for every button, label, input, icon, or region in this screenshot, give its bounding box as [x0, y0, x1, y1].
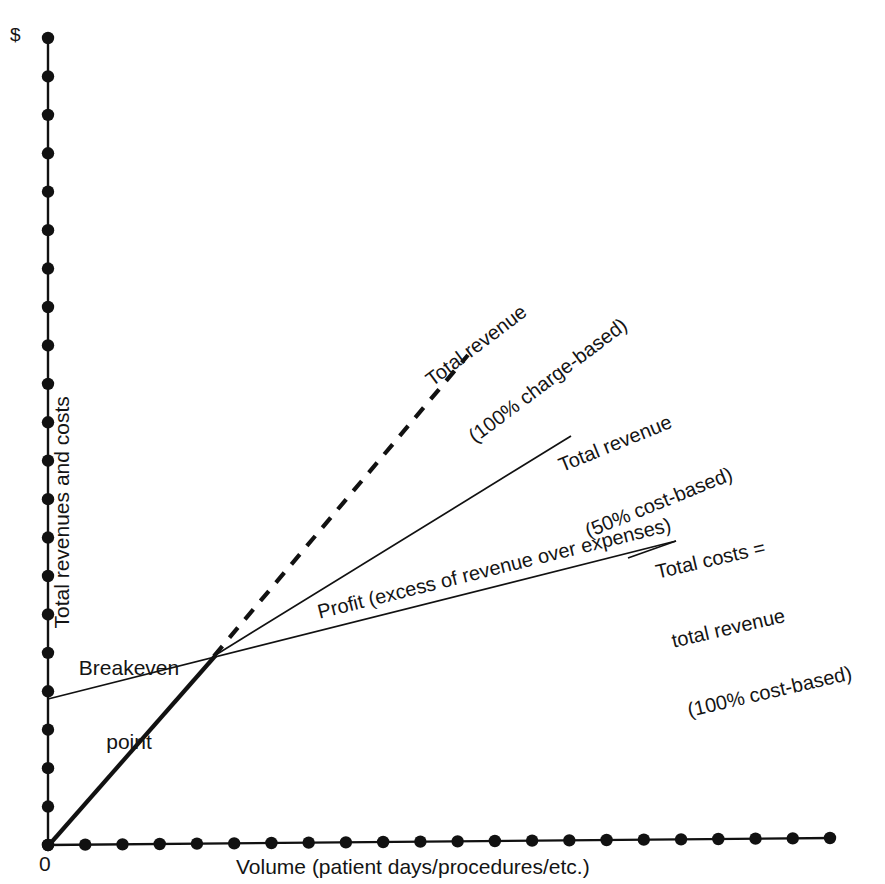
x-axis-tick-dot: [526, 834, 538, 846]
y-axis-tick-dot: [42, 224, 54, 236]
x-axis-tick-dot: [265, 837, 277, 849]
x-axis-tick-dot: [712, 833, 724, 845]
y-axis-tick-dot: [42, 32, 54, 44]
x-axis-tick-dot: [787, 832, 799, 844]
breakeven-label-line-2: point: [58, 730, 200, 755]
x-axis-tick-dot: [377, 836, 389, 848]
x-axis-tick-dot: [600, 834, 612, 846]
y-axis-tick-dot: [42, 685, 54, 697]
y-axis-tick-dot: [42, 109, 54, 121]
series-label-line-2: total revenue: [669, 593, 838, 654]
breakeven-point-label: Breakeven point: [58, 606, 200, 804]
y-axis-tick-dot: [42, 186, 54, 198]
series-label-line-1: Total costs =: [653, 524, 822, 585]
x-axis-tick-dot: [191, 837, 203, 849]
y-axis-tick-dot: [42, 724, 54, 736]
x-axis-tick-dot: [79, 838, 91, 850]
y-axis-tick-dot: [42, 70, 54, 82]
x-axis-tick-dot: [638, 833, 650, 845]
y-axis-tick-dot: [42, 262, 54, 274]
x-axis-tick-dot: [340, 836, 352, 848]
y-axis-tick-dot: [42, 147, 54, 159]
y-axis-tick-dot: [42, 800, 54, 812]
x-axis-tick-dot: [414, 835, 426, 847]
breakeven-chart: $ Total revenues and costs Volume (patie…: [0, 0, 885, 884]
series-label-line-1: Total revenue: [555, 397, 709, 478]
breakeven-label-line-1: Breakeven: [58, 656, 200, 681]
x-axis-tick-dot: [489, 835, 501, 847]
x-axis-tick-dot: [116, 838, 128, 850]
x-axis-tick-dot: [675, 833, 687, 845]
x-axis-tick-dot: [451, 835, 463, 847]
y-axis-tick-dot: [42, 301, 54, 313]
y-axis-tick-dot: [42, 339, 54, 351]
x-axis-tick-dot: [824, 832, 836, 844]
x-axis-title: Volume (patient days/procedures/etc.): [236, 855, 590, 880]
x-axis-tick-dot: [563, 834, 575, 846]
y-axis-unit-symbol: $: [10, 24, 21, 46]
x-axis-tick-dot: [228, 837, 240, 849]
x-axis-tick-dot: [749, 832, 761, 844]
y-axis-tick-dot: [42, 762, 54, 774]
x-axis-tick-dot: [302, 836, 314, 848]
x-axis-tick-dot: [154, 838, 166, 850]
series-label-line-3: (100% cost-based): [685, 661, 854, 722]
origin-zero-label: 0: [39, 852, 51, 877]
